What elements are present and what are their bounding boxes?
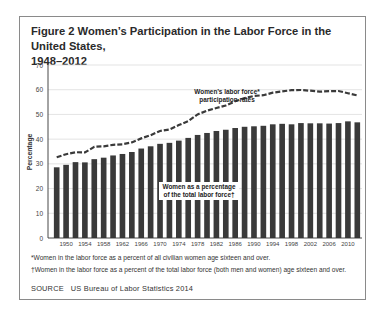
x-tick-label: 1958 (97, 241, 111, 247)
y-tick-label: 20 (36, 185, 44, 192)
bar (54, 167, 60, 238)
y-tick-label: 40 (36, 136, 44, 143)
bar (242, 127, 248, 238)
x-tick-label: 2006 (322, 241, 336, 247)
bar (129, 152, 135, 238)
bar (354, 122, 360, 238)
x-tick-label: 1978 (191, 241, 205, 247)
bar (251, 126, 257, 238)
bar (261, 126, 267, 238)
bar (308, 123, 314, 238)
footnote-share: †Women in the labor force as a percent o… (31, 266, 346, 273)
source-label: SOURCE (31, 284, 64, 293)
bar (63, 165, 69, 238)
bar (279, 124, 285, 238)
x-tick-label: 1974 (172, 241, 186, 247)
bar (110, 155, 116, 238)
line-annotation: participation rates (199, 96, 255, 104)
x-tick-label: 1986 (229, 241, 243, 247)
x-tick-label: 1966 (135, 241, 149, 247)
bar (270, 124, 276, 238)
bar (138, 149, 144, 238)
source-line: SOURCEUS Bureau of Labor Statistics 2014 (31, 284, 193, 293)
x-tick-label: 1962 (116, 241, 130, 247)
x-tick-label: 2002 (304, 241, 318, 247)
source-text: US Bureau of Labor Statistics 2014 (71, 284, 193, 293)
x-tick-label: 1954 (78, 241, 92, 247)
bar (345, 121, 351, 238)
x-tick-label: 1990 (247, 241, 261, 247)
bar (317, 123, 323, 238)
y-tick-label: 0 (39, 235, 43, 242)
bar (82, 162, 88, 238)
x-tick-label: 1982 (210, 241, 224, 247)
bar (289, 124, 295, 238)
bar (73, 162, 79, 238)
y-tick-label: 70 (36, 62, 44, 69)
bar (148, 146, 154, 238)
x-tick-label: 1994 (266, 241, 280, 247)
bar (336, 123, 342, 238)
y-tick-label: 50 (36, 111, 44, 118)
bar (120, 154, 126, 238)
x-tick-label: 1970 (153, 241, 167, 247)
bar-annotation: of the total labor force† (163, 191, 234, 198)
x-tick-label: 1950 (59, 241, 73, 247)
line-annotation: Women’s labor force* (194, 88, 260, 95)
footnote-participation: *Women in the labor force as a percent o… (31, 254, 270, 261)
y-axis-label: Percentage (26, 133, 34, 170)
bar (91, 159, 97, 238)
bar (298, 123, 304, 238)
bar-annotation: Women as a percentage (162, 183, 235, 191)
x-tick-label: 2010 (341, 241, 355, 247)
y-tick-label: 60 (36, 86, 44, 93)
bar (101, 158, 107, 238)
x-tick-label: 1998 (285, 241, 299, 247)
bar (326, 124, 332, 238)
y-tick-label: 10 (36, 210, 44, 217)
y-tick-label: 30 (36, 160, 44, 167)
